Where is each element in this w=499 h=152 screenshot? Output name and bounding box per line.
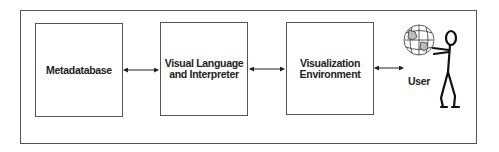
user-stick-figure-icon xyxy=(433,31,459,107)
node-user-label: User xyxy=(408,75,430,87)
globe-icon xyxy=(404,25,434,55)
